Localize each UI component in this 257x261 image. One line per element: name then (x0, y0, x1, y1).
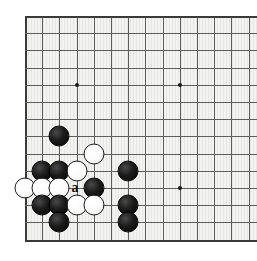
grid-line-horizontal (25, 102, 257, 103)
black-stone[interactable] (49, 212, 70, 233)
point-label-a: a (72, 181, 79, 195)
board-surface[interactable]: a (25, 16, 257, 241)
go-board-diagram: a (0, 0, 257, 261)
white-stone[interactable] (66, 160, 87, 181)
grid-line-horizontal (25, 16, 257, 18)
grid-line-horizontal (25, 33, 257, 34)
grid-line-horizontal (25, 119, 257, 120)
grid-line-horizontal (25, 50, 257, 51)
black-stone[interactable] (118, 160, 139, 181)
black-stone[interactable] (118, 212, 139, 233)
grid-line-horizontal (25, 240, 257, 242)
black-stone[interactable] (49, 126, 70, 147)
star-point (75, 83, 79, 87)
grid-line-horizontal (25, 154, 257, 155)
star-point (178, 186, 182, 190)
white-stone[interactable] (83, 143, 104, 164)
grid-line-horizontal (25, 85, 257, 86)
star-point (178, 83, 182, 87)
white-stone[interactable] (83, 195, 104, 216)
grid-line-horizontal (25, 68, 257, 69)
